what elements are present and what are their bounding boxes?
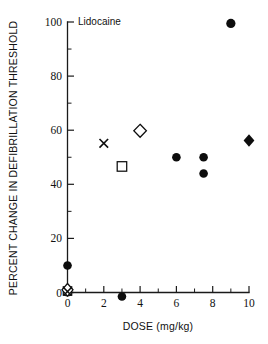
series-filled-diamond xyxy=(244,134,255,147)
data-point xyxy=(199,153,208,162)
plot-title: Lidocaine xyxy=(78,16,121,27)
y-tick-label-40: 40 xyxy=(51,178,63,190)
y-tick-label-20: 20 xyxy=(51,232,63,244)
series-filled-circle xyxy=(63,19,235,301)
y-tick-label-100: 100 xyxy=(45,16,63,28)
y-tick-label-60: 60 xyxy=(51,124,63,136)
x-tick-label-8: 8 xyxy=(210,297,216,309)
series-open-square xyxy=(63,162,126,295)
data-point xyxy=(226,19,235,28)
x-tick-label-4: 4 xyxy=(137,297,143,309)
data-point xyxy=(63,261,72,270)
scatter-plot: 0 20 40 60 80 100 0 2 4 6 8 10 Lidocaine… xyxy=(0,0,268,344)
x-tick-label-2: 2 xyxy=(101,297,107,309)
series-open-diamond xyxy=(62,124,146,296)
data-point xyxy=(199,169,208,178)
data-point xyxy=(134,124,147,137)
x-tick-label-10: 10 xyxy=(243,297,255,309)
series-cross-x xyxy=(64,139,109,296)
y-axis-title: PERCENT CHANGE IN DEFIBRILLATION THRESHO… xyxy=(7,21,19,296)
y-tick-label-0: 0 xyxy=(56,287,62,299)
data-point xyxy=(244,134,255,147)
data-point xyxy=(172,153,181,162)
x-axis-title: DOSE (mg/kg) xyxy=(123,320,194,332)
data-point xyxy=(117,162,127,172)
x-tick-label-0: 0 xyxy=(65,297,71,309)
data-point xyxy=(100,139,109,148)
x-tick-label-6: 6 xyxy=(174,297,180,309)
y-tick-label-80: 80 xyxy=(51,70,63,82)
chart-figure: 0 20 40 60 80 100 0 2 4 6 8 10 Lidocaine… xyxy=(0,0,268,344)
axis-lines xyxy=(68,22,250,293)
data-point xyxy=(118,292,127,301)
